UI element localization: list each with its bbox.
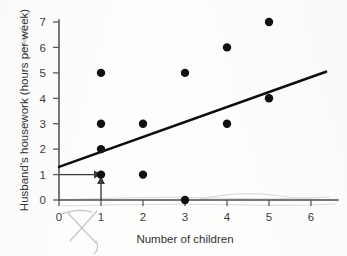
y-tick-label-0: 0	[40, 194, 46, 206]
data-point	[265, 18, 273, 26]
pencil-x-mark	[62, 210, 97, 243]
data-point	[139, 170, 147, 178]
x-axis-title: Number of children	[136, 233, 233, 245]
data-point	[223, 43, 231, 51]
y-tick-label-7: 7	[40, 16, 46, 28]
y-axis-title: Husband's housework (hours per week)	[18, 9, 30, 211]
data-point	[139, 120, 147, 128]
data-point	[97, 69, 105, 77]
data-point	[97, 120, 105, 128]
data-point	[181, 196, 189, 204]
data-point	[97, 145, 105, 153]
x-tick-label-1: 1	[98, 211, 104, 223]
y-tick-label-3: 3	[40, 118, 46, 130]
x-tick-label-3: 3	[182, 211, 188, 223]
data-point	[265, 94, 273, 102]
scatterplot-figure: 0 1 2 3 4 5 6 7 0 1 2 3 4 5 6 Number of …	[0, 0, 347, 256]
x-tick-label-2: 2	[140, 211, 146, 223]
data-point	[97, 170, 105, 178]
x-tick-labels: 0 1 2 3 4 5 6	[56, 211, 314, 223]
x-tick-label-6: 6	[308, 211, 314, 223]
y-tick-label-1: 1	[40, 169, 46, 181]
x-tick-label-5: 5	[266, 211, 272, 223]
y-tick-label-6: 6	[40, 42, 46, 54]
data-point	[223, 120, 231, 128]
data-points-group	[97, 18, 273, 204]
data-point	[181, 69, 189, 77]
y-tick-labels: 0 1 2 3 4 5 6 7	[40, 16, 47, 206]
plot-canvas: 0 1 2 3 4 5 6 7 0 1 2 3 4 5 6 Number of …	[0, 0, 347, 256]
y-axis-ticks	[53, 22, 59, 200]
y-tick-label-5: 5	[40, 67, 46, 79]
y-tick-label-2: 2	[40, 143, 46, 155]
x-tick-label-4: 4	[224, 211, 231, 223]
x-tick-label-0: 0	[56, 211, 62, 223]
y-tick-label-4: 4	[40, 93, 47, 105]
